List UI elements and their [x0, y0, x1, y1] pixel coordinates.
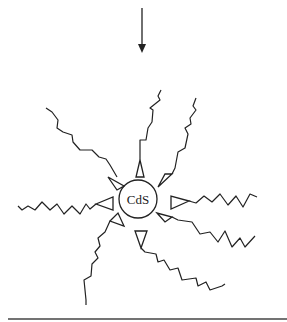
chain-top-right	[172, 98, 196, 174]
anchor-right-icon	[171, 196, 189, 209]
core-label: CdS	[127, 192, 149, 207]
anchor-top-right-icon	[158, 174, 172, 187]
chain-bottom-right	[172, 217, 255, 247]
anchor-bottom-left-icon	[110, 213, 124, 226]
anchor-bottom-right-icon	[157, 213, 172, 222]
chain-bottom-left	[84, 221, 110, 305]
chain-bottom	[141, 248, 225, 290]
chain-left	[18, 202, 96, 214]
anchor-top-icon	[136, 160, 144, 177]
anchor-left-icon	[96, 197, 113, 210]
diagram-canvas: CdS	[0, 0, 287, 322]
anchor-bottom-icon	[135, 231, 147, 248]
incident-arrow	[138, 8, 146, 53]
chain-top	[140, 90, 161, 160]
anchor-top-left-icon	[108, 177, 124, 190]
chain-top-left	[46, 108, 117, 177]
arrow-head-icon	[138, 44, 146, 53]
chain-right	[189, 194, 257, 207]
